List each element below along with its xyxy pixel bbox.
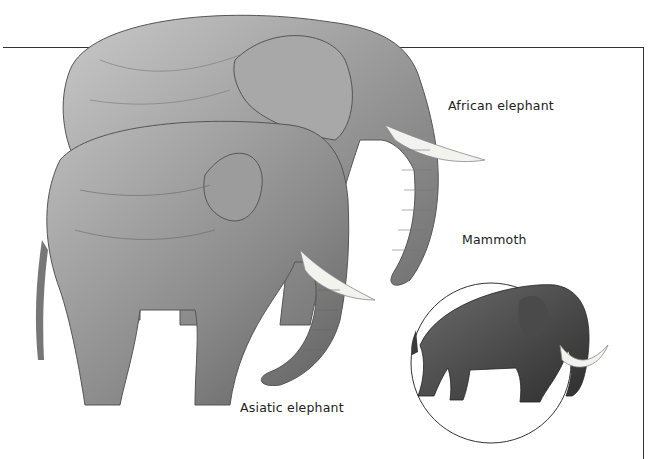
african-elephant-label: African elephant bbox=[448, 98, 554, 113]
asiatic-elephant-label: Asiatic elephant bbox=[240, 400, 344, 415]
mammoth bbox=[411, 285, 608, 402]
illustration bbox=[0, 0, 666, 459]
mammoth-label: Mammoth bbox=[462, 232, 527, 247]
asiatic-elephant bbox=[36, 121, 375, 405]
